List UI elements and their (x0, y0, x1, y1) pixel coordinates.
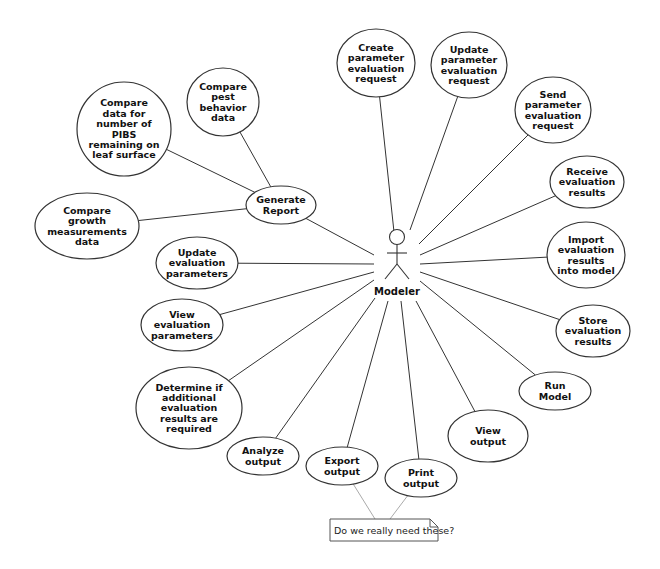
use-case-label: View (475, 425, 501, 436)
use-case-store-eval-results[interactable]: Storeevaluationresults (556, 305, 630, 357)
note-link-print-output (390, 496, 408, 519)
use-case-label: Update (450, 44, 489, 55)
use-case-label: evaluation (525, 110, 582, 121)
use-case-label: evaluation (558, 244, 615, 255)
use-case-label: Receive (566, 166, 608, 177)
association-generate-report (306, 218, 374, 255)
note-link-export-output (353, 484, 375, 519)
use-case-print-output[interactable]: Printoutput (385, 459, 457, 497)
association-view-eval-params (220, 272, 374, 315)
use-case-receive-eval-results[interactable]: Receiveevaluationresults (550, 156, 624, 208)
use-case-label: data for (103, 108, 146, 119)
use-case-update-param-req[interactable]: Updateparameterevaluationrequest (431, 32, 507, 98)
association-store-eval-results (420, 272, 560, 320)
use-case-label: Compare (63, 205, 111, 216)
use-case-label: growth (68, 215, 106, 226)
use-case-label: Create (358, 42, 394, 53)
use-case-label: Import (568, 234, 604, 245)
use-case-label: results are (160, 413, 218, 424)
use-case-label: Send (540, 89, 567, 100)
use-case-compare-pest[interactable]: Comparepestbehaviordata (187, 68, 259, 136)
use-case-export-output[interactable]: Exportoutput (306, 447, 378, 485)
use-case-label: Generate (256, 194, 306, 205)
use-case-label: parameter (348, 52, 405, 63)
use-case-label: additional (162, 392, 216, 403)
use-case-label: evaluation (348, 63, 405, 74)
use-case-update-eval-params[interactable]: Updateevaluationparameters (156, 237, 238, 289)
use-case-label: behavior (199, 102, 246, 113)
use-case-label: View (169, 309, 195, 320)
use-case-label: Export (324, 455, 360, 466)
use-case-label: Print (408, 467, 435, 478)
use-case-label: data (75, 236, 99, 247)
use-case-send-param-req[interactable]: Sendparameterevaluationrequest (515, 77, 591, 143)
use-case-label: evaluation (154, 319, 211, 330)
use-case-label: remaining on (89, 139, 160, 150)
association-update-param-req (410, 97, 458, 230)
use-case-import-eval-results[interactable]: Importevaluationresultsinto model (547, 222, 625, 288)
use-case-label: request (532, 120, 574, 131)
use-case-label: evaluation (559, 176, 616, 187)
use-case-label: results (575, 336, 612, 347)
use-case-label: measurements (47, 226, 127, 237)
association-create-param-req (380, 97, 394, 232)
use-case-label: Model (539, 391, 571, 402)
use-case-label: output (245, 456, 281, 467)
use-case-run-model[interactable]: RunModel (519, 372, 591, 410)
use-case-label: parameter (525, 99, 582, 110)
use-case-diagram: CreateparameterevaluationrequestUpdatepa… (0, 0, 660, 569)
use-case-label: results (569, 187, 606, 198)
use-case-label: leaf surface (92, 149, 155, 160)
use-case-label: Store (578, 315, 607, 326)
use-case-label: Update (178, 247, 217, 258)
actor-left-leg (385, 264, 397, 279)
use-case-label: request (448, 75, 490, 86)
use-case-label: Determine if (155, 382, 223, 393)
use-case-create-param-req[interactable]: Createparameterevaluationrequest (337, 29, 415, 97)
use-case-label: results (568, 255, 605, 266)
use-case-compare-growth[interactable]: Comparegrowthmeasurementsdata (35, 193, 139, 259)
actor-modeler[interactable]: Modeler (374, 230, 420, 298)
use-case-label: Compare (199, 81, 247, 92)
use-case-view-output[interactable]: Viewoutput (448, 410, 528, 462)
use-case-label: output (403, 478, 439, 489)
use-case-label: pest (211, 91, 235, 102)
use-case-label: evaluation (161, 402, 218, 413)
use-case-view-eval-params[interactable]: Viewevaluationparameters (141, 299, 223, 351)
use-case-label: Compare (100, 97, 148, 108)
use-case-label: into model (557, 265, 614, 276)
association-export-output (347, 301, 388, 447)
use-case-label: Analyze (242, 445, 284, 456)
association-compare-growth (138, 209, 246, 221)
association-view-output (416, 301, 475, 411)
use-case-determine-additional[interactable]: Determine ifadditionalevaluationresults … (136, 367, 242, 449)
association-print-output (401, 301, 419, 459)
association-receive-eval-results (420, 196, 556, 255)
use-case-compare-pibs[interactable]: Comparedata fornumber ofPIBSremaining on… (77, 82, 171, 176)
association-compare-pest (240, 132, 271, 187)
use-case-label: Report (263, 205, 300, 216)
use-case-label: PIBS (112, 129, 137, 140)
actor-head-icon (390, 230, 405, 245)
association-analyze-output (276, 298, 375, 438)
use-case-label: parameter (441, 54, 498, 65)
note-text: Do we really need these? (334, 525, 454, 536)
association-run-model (420, 281, 535, 375)
use-case-label: evaluation (565, 325, 622, 336)
use-case-analyze-output[interactable]: Analyzeoutput (227, 437, 299, 475)
use-case-label: evaluation (441, 65, 498, 76)
use-case-label: data (211, 112, 235, 123)
association-compare-pibs (166, 149, 255, 192)
use-cases: CreateparameterevaluationrequestUpdatepa… (35, 29, 630, 497)
note-do-we-need-these[interactable]: Do we really need these? (330, 519, 454, 541)
use-case-label: required (166, 423, 212, 434)
use-case-label: output (324, 466, 360, 477)
association-import-eval-results (420, 257, 547, 264)
actor-label: Modeler (374, 286, 420, 297)
use-case-label: number of (96, 118, 152, 129)
use-case-label: parameters (151, 330, 213, 341)
use-case-label: parameters (166, 268, 228, 279)
use-case-generate-report[interactable]: GenerateReport (246, 186, 316, 224)
use-case-label: request (355, 73, 397, 84)
association-update-eval-params (238, 263, 374, 264)
